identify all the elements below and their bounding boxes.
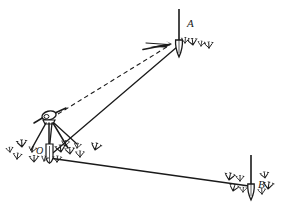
point-label-O: O bbox=[36, 146, 43, 156]
grass-tuft bbox=[223, 172, 236, 181]
ranging-pole-A bbox=[176, 9, 183, 57]
point-label-B: B bbox=[258, 179, 265, 190]
grass-tuft bbox=[15, 139, 28, 148]
ranging-pole-B bbox=[248, 155, 255, 200]
grass-tuft bbox=[239, 187, 248, 192]
grass-tuft bbox=[12, 152, 23, 159]
arrow-at-A bbox=[143, 41, 172, 50]
grass-tuft bbox=[235, 175, 245, 182]
point-label-A: A bbox=[187, 18, 194, 29]
grass-tuft bbox=[90, 141, 103, 151]
ground-line-O-to-A bbox=[47, 47, 177, 158]
grass-tuft bbox=[203, 41, 214, 49]
grass-tuft bbox=[75, 150, 86, 157]
sight-line-O-to-A bbox=[58, 45, 170, 114]
grass-tuft bbox=[64, 146, 76, 155]
grass-tuft bbox=[73, 142, 82, 148]
surveying-diagram-figure: A O B bbox=[0, 0, 286, 219]
ground-line-O-to-B bbox=[49, 158, 249, 186]
grass-tuft bbox=[5, 146, 14, 153]
diagram-canvas bbox=[0, 0, 286, 219]
ground-lines-group bbox=[47, 47, 249, 186]
